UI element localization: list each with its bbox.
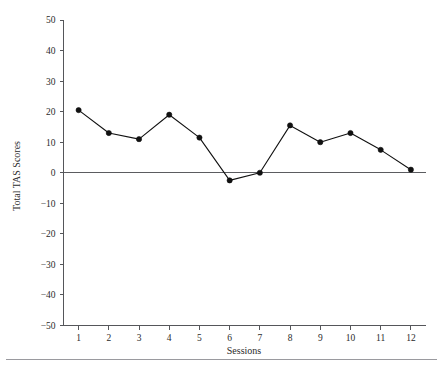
x-tick-label: 4 xyxy=(167,333,172,343)
x-tick-label: 7 xyxy=(257,333,262,343)
x-tick-label: 10 xyxy=(346,333,356,343)
data-point-marker xyxy=(76,108,81,113)
y-tick-label: 10 xyxy=(46,138,56,148)
y-tick-label: 50 xyxy=(46,15,56,25)
data-point-marker xyxy=(106,130,111,135)
data-point-marker xyxy=(348,130,353,135)
y-tick-label: −20 xyxy=(41,229,56,239)
y-tick-label: 40 xyxy=(46,46,56,56)
y-tick-label: −50 xyxy=(41,321,56,331)
y-tick-label: 20 xyxy=(46,107,56,117)
x-tick-label: 12 xyxy=(406,333,416,343)
data-point-marker xyxy=(136,137,141,142)
x-tick-label: 3 xyxy=(137,333,142,343)
line-chart: 50403020100−10−20−30−40−50 Total TAS Sco… xyxy=(0,0,443,371)
x-tick-label: 9 xyxy=(318,333,323,343)
footer-divider xyxy=(6,359,437,360)
y-tick-label: −10 xyxy=(41,199,56,209)
data-point-marker xyxy=(257,170,262,175)
y-axis-title: Total TAS Scores xyxy=(11,141,22,211)
chart-figure: 50403020100−10−20−30−40−50 Total TAS Sco… xyxy=(0,0,443,371)
x-tick-label: 2 xyxy=(106,333,111,343)
y-tick-label: 0 xyxy=(51,168,56,178)
data-point-marker xyxy=(227,178,232,183)
data-point-marker xyxy=(378,147,383,152)
data-point-marker xyxy=(408,167,413,172)
y-tick-label: −40 xyxy=(41,290,56,300)
x-tick-label: 11 xyxy=(376,333,385,343)
y-tick-label: −30 xyxy=(41,260,56,270)
y-tick-label: 30 xyxy=(46,77,56,87)
x-tick-label: 1 xyxy=(76,333,81,343)
x-tick-label: 8 xyxy=(288,333,293,343)
data-point-marker xyxy=(167,112,172,117)
x-axis-title: Sessions xyxy=(227,345,262,356)
data-point-marker xyxy=(287,123,292,128)
data-point-marker xyxy=(318,140,323,145)
chart-background xyxy=(0,0,443,371)
x-tick-label: 6 xyxy=(227,333,232,343)
data-point-marker xyxy=(197,135,202,140)
x-tick-label: 5 xyxy=(197,333,202,343)
